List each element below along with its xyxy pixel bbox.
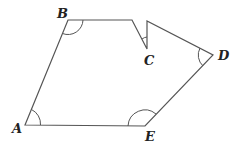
vertex-label-B: B — [56, 6, 68, 21]
angle-mark-E — [128, 110, 156, 126]
vertex-label-E: E — [144, 129, 156, 144]
angle-mark-C — [142, 37, 147, 39]
vertex-label-C: C — [144, 53, 155, 68]
pentagon-diagram: A B C D E — [0, 0, 240, 151]
angle-mark-D — [198, 48, 203, 66]
vertex-label-D: D — [217, 48, 230, 63]
vertex-label-A: A — [10, 121, 22, 136]
angle-mark-A — [32, 110, 41, 126]
polygon-outline — [25, 20, 213, 126]
